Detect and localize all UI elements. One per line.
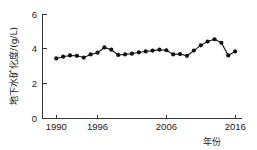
data-point: [212, 37, 216, 41]
data-point: [206, 39, 210, 43]
y-tick-label-0: 0: [32, 113, 37, 124]
x-tick-label-2016: 2016: [225, 121, 246, 132]
data-point: [109, 48, 113, 52]
x-tick-label-2006: 2006: [156, 121, 177, 132]
data-point: [102, 45, 106, 49]
data-point: [75, 54, 79, 58]
x-tick-label-1996: 1996: [87, 121, 108, 132]
data-point: [137, 50, 141, 54]
data-point: [226, 53, 230, 57]
data-point: [116, 53, 120, 57]
data-point: [130, 52, 134, 56]
data-point: [199, 43, 203, 47]
data-point: [54, 56, 58, 60]
x-tick-label-1990: 1990: [46, 121, 67, 132]
y-tick-label-2: 2: [32, 78, 37, 89]
data-point: [144, 49, 148, 53]
y-tick-label-6: 6: [32, 9, 37, 20]
x-axis-ticks: [56, 115, 235, 119]
y-axis-ticks: [43, 14, 47, 119]
data-point: [178, 52, 182, 56]
y-axis-title: 地下水矿化度/(g/L): [8, 27, 19, 105]
data-point: [171, 52, 175, 56]
data-point: [150, 48, 154, 52]
data-point: [89, 52, 93, 56]
data-point: [185, 54, 189, 58]
x-axis-title: 年份: [203, 136, 221, 147]
data-point: [82, 55, 86, 59]
data-point: [164, 48, 168, 52]
data-point: [233, 49, 237, 53]
chart-canvas: 0 2 4 6 1990 1996 2006 2016 地下水矿化度/(g/L)…: [0, 0, 257, 150]
data-point: [157, 48, 161, 52]
data-point: [192, 48, 196, 52]
data-point: [61, 55, 65, 59]
data-point: [68, 53, 72, 57]
data-point: [123, 52, 127, 56]
data-point: [219, 41, 223, 45]
chart-figure: 0 2 4 6 1990 1996 2006 2016 地下水矿化度/(g/L)…: [0, 0, 257, 150]
y-tick-label-4: 4: [32, 43, 37, 54]
data-point: [95, 51, 99, 55]
